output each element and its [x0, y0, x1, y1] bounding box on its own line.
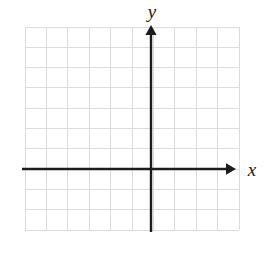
grid-lines	[25, 27, 239, 230]
coordinate-plane: y x	[0, 0, 271, 254]
x-axis	[22, 163, 236, 175]
x-axis-label: x	[244, 160, 260, 179]
graph-canvas	[0, 0, 271, 254]
y-axis-label: y	[144, 2, 160, 21]
x-axis-arrowhead	[226, 163, 236, 175]
